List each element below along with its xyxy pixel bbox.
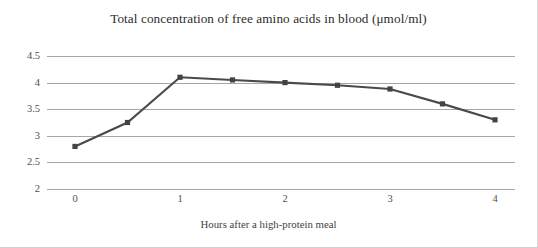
x-axis-title: Hours after a high-protein meal [0,218,537,230]
data-point [177,75,182,80]
data-point [335,83,340,88]
series-polyline [75,77,495,146]
data-point [230,77,235,82]
data-series-line [0,0,538,248]
data-point [282,80,287,85]
data-point [387,86,392,91]
data-point [125,120,130,125]
data-point [492,117,497,122]
series-markers [72,75,497,149]
chart-card: Total concentration of free amino acids … [0,0,538,248]
data-point [440,101,445,106]
plot-area: 4.5 4 3.5 3 2.5 2 0 1 2 3 4 [0,0,538,248]
data-point [72,144,77,149]
